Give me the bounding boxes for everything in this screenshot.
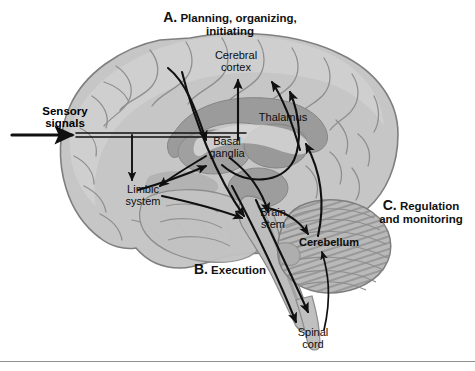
- bottom-divider: [0, 361, 475, 362]
- figure-canvas: A. Planning, organizing, initiating B. E…: [0, 0, 475, 371]
- brain-diagram-svg: [0, 0, 475, 371]
